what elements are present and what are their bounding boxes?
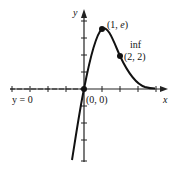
x-axis-label: x (163, 95, 167, 105)
max-point-text: (1, (107, 19, 120, 30)
origin-point (81, 86, 87, 92)
inflection-point (117, 53, 123, 59)
y-axis-arrow-icon (81, 9, 87, 18)
inflection-annotation: inf (130, 40, 141, 50)
max-point-close: ) (125, 19, 128, 30)
x-axis-arrow-icon (160, 86, 168, 92)
inflection-point-label: (2, 2) (124, 52, 146, 62)
max-point (99, 26, 105, 32)
origin-label: (0, 0) (86, 95, 108, 105)
plot-canvas (0, 0, 178, 172)
y-axis-label: y (73, 8, 77, 18)
asymptote-label: y = 0 (12, 95, 33, 105)
max-point-label: (1, e) (107, 20, 128, 30)
